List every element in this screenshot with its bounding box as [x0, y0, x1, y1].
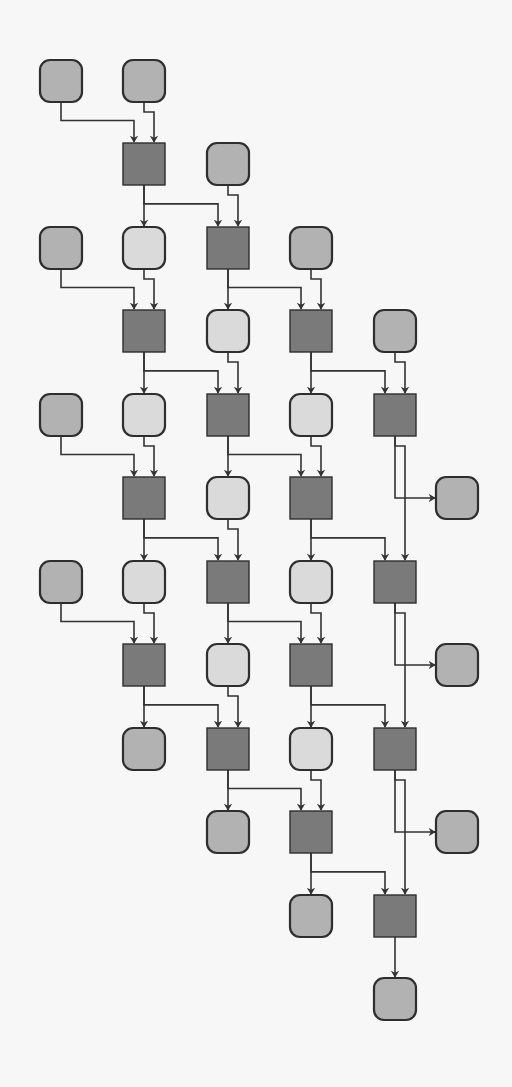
- edge-arrow: [228, 686, 238, 727]
- edge-arrow: [311, 686, 385, 727]
- edge-arrow: [228, 770, 301, 810]
- data-node: [207, 143, 249, 185]
- edge-arrow: [311, 269, 321, 309]
- data-node: [40, 394, 82, 436]
- data-node: [436, 811, 478, 853]
- intermediate-node: [207, 644, 249, 686]
- intermediate-node: [123, 227, 165, 269]
- edge-arrow: [311, 770, 321, 810]
- data-node: [40, 60, 82, 102]
- dataflow-diagram: [0, 0, 512, 1087]
- edge-arrow: [311, 603, 321, 643]
- edge-arrow: [61, 436, 134, 476]
- data-node: [436, 477, 478, 519]
- operator-node: [374, 561, 416, 603]
- edge-arrow: [61, 102, 134, 142]
- data-node: [123, 728, 165, 770]
- data-node: [290, 227, 332, 269]
- operator-node: [374, 895, 416, 937]
- data-node: [207, 811, 249, 853]
- operator-node: [290, 644, 332, 686]
- intermediate-node: [123, 394, 165, 436]
- operator-node: [123, 644, 165, 686]
- operator-node: [207, 394, 249, 436]
- operator-node: [290, 310, 332, 352]
- data-node: [374, 978, 416, 1020]
- edge-arrow: [144, 519, 218, 560]
- edge-arrow: [228, 352, 238, 393]
- edge-arrow: [228, 269, 301, 309]
- data-node: [123, 60, 165, 102]
- edge-arrow: [311, 519, 385, 560]
- intermediate-node: [207, 477, 249, 519]
- node-layer: [40, 60, 478, 1020]
- data-node: [436, 644, 478, 686]
- edge-arrow: [61, 269, 134, 309]
- edge-arrow: [228, 519, 238, 560]
- edge-arrow: [144, 603, 154, 643]
- operator-node: [207, 728, 249, 770]
- intermediate-node: [290, 728, 332, 770]
- operator-node: [123, 477, 165, 519]
- intermediate-node: [290, 394, 332, 436]
- operator-node: [123, 143, 165, 185]
- intermediate-node: [207, 310, 249, 352]
- edge-arrow: [61, 603, 134, 643]
- edge-arrow: [311, 352, 385, 393]
- operator-node: [207, 561, 249, 603]
- data-node: [374, 310, 416, 352]
- intermediate-node: [123, 561, 165, 603]
- operator-node: [290, 811, 332, 853]
- edge-arrow: [311, 853, 385, 894]
- data-node: [40, 227, 82, 269]
- edge-arrow: [144, 269, 154, 309]
- edge-arrow: [228, 436, 301, 476]
- edge-arrow: [311, 436, 321, 476]
- edge-arrow: [144, 102, 154, 142]
- operator-node: [290, 477, 332, 519]
- operator-node: [123, 310, 165, 352]
- edge-arrow: [144, 686, 218, 727]
- operator-node: [374, 394, 416, 436]
- edge-arrow: [144, 436, 154, 476]
- operator-node: [207, 227, 249, 269]
- edge-arrow: [228, 603, 301, 643]
- data-node: [40, 561, 82, 603]
- edge-arrow: [144, 185, 218, 226]
- edge-arrow: [395, 352, 405, 393]
- edge-arrow: [144, 352, 218, 393]
- edge-arrow: [228, 185, 238, 226]
- data-node: [290, 895, 332, 937]
- intermediate-node: [290, 561, 332, 603]
- operator-node: [374, 728, 416, 770]
